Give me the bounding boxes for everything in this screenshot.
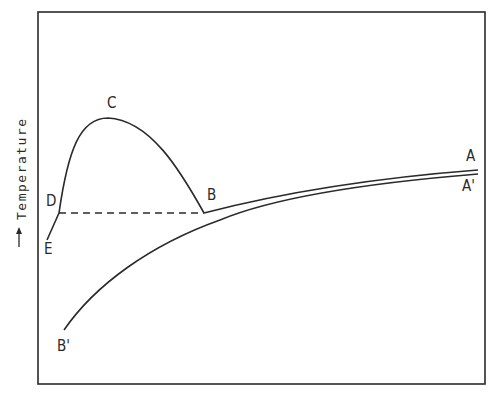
curve-a-b (204, 170, 478, 213)
up-arrow-icon (16, 227, 22, 247)
label-c: C (107, 94, 116, 112)
label-a: A (466, 147, 476, 165)
label-e: E (44, 240, 53, 258)
label-b: B (207, 186, 216, 204)
y-axis-label: Temperature (14, 117, 29, 220)
curve-b-c-d (59, 118, 204, 213)
temperature-diagram: Temperature A A' B B' C D E (0, 0, 492, 404)
y-axis-label-group: Temperature (14, 117, 29, 220)
plot-frame (38, 12, 485, 384)
label-b-prime: B' (57, 337, 70, 355)
label-a-prime: A' (462, 177, 475, 195)
label-d: D (46, 192, 56, 210)
curve-d-e (47, 213, 59, 240)
